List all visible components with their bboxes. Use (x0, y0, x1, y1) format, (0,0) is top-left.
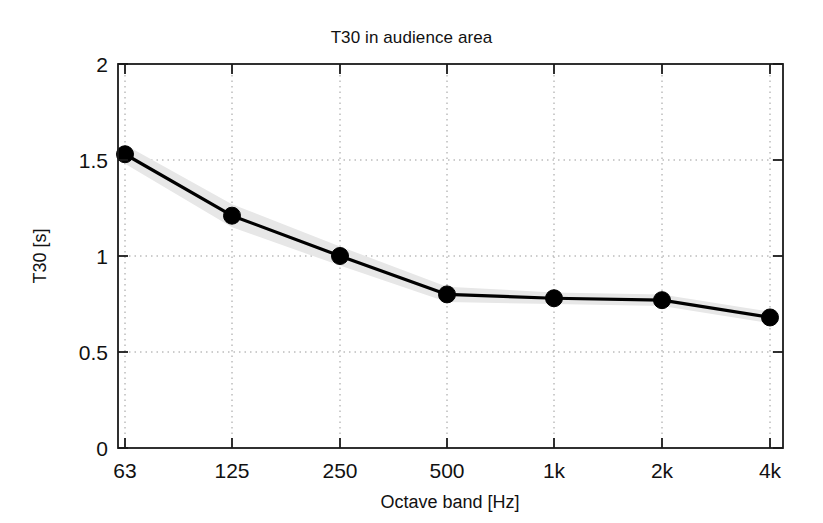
data-point-marker (762, 309, 779, 326)
x-tick-label: 500 (429, 459, 464, 482)
data-point-marker (332, 248, 349, 265)
figure-container: T30 in audience area (0, 0, 823, 523)
y-tick-label: 0.5 (79, 341, 108, 364)
x-tick-label: 250 (322, 459, 357, 482)
y-tick-label: 1.5 (79, 149, 108, 172)
x-tick-label: 4k (759, 459, 782, 482)
chart-plot: 0 0.5 1 1.5 2 63 125 250 500 1k 2k 4k Oc… (0, 0, 823, 523)
x-tick-label: 125 (214, 459, 249, 482)
y-tick-label: 1 (96, 245, 108, 268)
x-tick-label: 1k (543, 459, 566, 482)
x-axis-title: Octave band [Hz] (380, 492, 519, 512)
x-tick-label: 63 (113, 459, 136, 482)
data-point-marker (546, 290, 563, 307)
data-point-marker (224, 207, 241, 224)
y-axis-title: T30 [s] (30, 228, 50, 283)
data-point-marker (654, 292, 671, 309)
x-tick-labels: 63 125 250 500 1k 2k 4k (113, 459, 781, 482)
y-tick-label: 2 (96, 53, 108, 76)
data-point-marker (439, 286, 456, 303)
y-tick-labels: 0 0.5 1 1.5 2 (79, 53, 108, 460)
x-tick-label: 2k (651, 459, 674, 482)
y-tick-label: 0 (96, 437, 108, 460)
